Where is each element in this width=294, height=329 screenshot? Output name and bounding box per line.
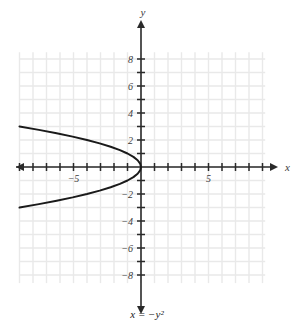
coordinate-plane-svg: −558642−2−4−6−8 x y [0, 0, 294, 329]
y-tick-label: 2 [128, 135, 133, 146]
y-axis-label: y [140, 6, 146, 18]
y-tick-label: 4 [128, 108, 133, 119]
y-tick-label: −2 [121, 189, 133, 200]
equation-caption: x = −y² [0, 308, 294, 320]
y-tick-label: −8 [121, 270, 133, 281]
y-tick-label: 6 [128, 81, 133, 92]
y-tick-label: 8 [128, 54, 133, 65]
axes [16, 20, 278, 314]
x-tick-label: −5 [68, 173, 80, 184]
x-tick-label: 5 [206, 173, 211, 184]
x-axis-label: x [284, 161, 290, 173]
y-tick-label: −4 [121, 216, 133, 227]
y-tick-label: −6 [121, 243, 133, 254]
graph-figure: −558642−2−4−6−8 x y [0, 0, 294, 329]
